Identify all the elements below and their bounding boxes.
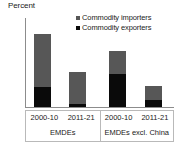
category-group-emdes: 2000-10 2011-21 EMDEs [26,111,100,141]
bar-1 [34,34,51,107]
category-group-label: EMDEs [26,125,100,140]
category-period-label: 2000-10 [101,111,137,125]
bar-segment-exporters [109,74,126,107]
y-axis-title: Percent [8,1,35,10]
category-periods-emdes-excl-china: 2000-10 2011-21 [101,111,174,125]
category-period-label: 2000-10 [26,111,63,125]
bar-segment-importers [69,72,86,104]
chart-figure: Percent Commodity importers Commodity ex… [0,0,176,145]
category-period-label: 2011-21 [63,111,100,125]
category-label-table: 2000-10 2011-21 EMDEs 2000-10 2011-21 EM… [25,110,174,142]
y-axis-line [25,18,26,108]
bar-segment-exporters [69,104,86,107]
bar-3 [109,51,126,107]
category-group-emdes-excl-china: 2000-10 2011-21 EMDEs excl. China [100,111,174,141]
bar-segment-exporters [145,100,162,107]
category-periods-emdes: 2000-10 2011-21 [26,111,100,125]
bar-segment-exporters [34,87,51,107]
bar-segment-importers [145,86,162,100]
category-group-label: EMDEs excl. China [101,125,174,140]
bar-4 [145,86,162,107]
bar-2 [69,72,86,107]
bar-segment-importers [34,34,51,87]
bar-segment-importers [109,51,126,73]
plot-area: 121086420 [25,18,174,108]
category-period-label: 2011-21 [137,111,173,125]
x-axis-line [25,107,174,108]
